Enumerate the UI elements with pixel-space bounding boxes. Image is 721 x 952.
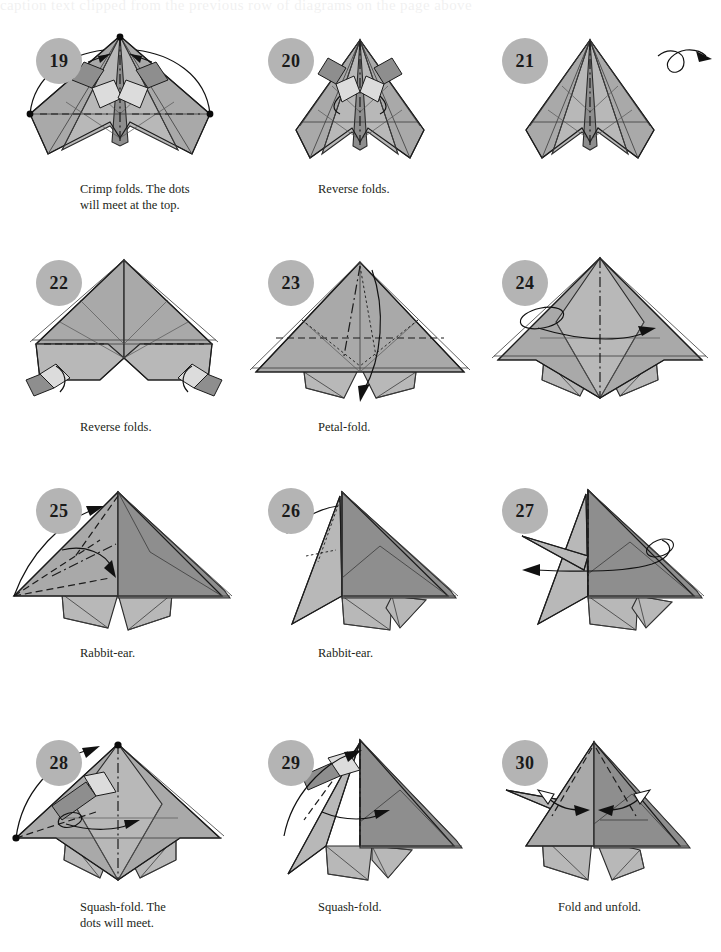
step-28: 28 Squash-fold. The dots will meet. xyxy=(0,728,240,952)
step-number-badge: 19 xyxy=(36,38,82,84)
origami-instruction-page: 19 Crimp folds. The dots will meet at th… xyxy=(0,0,721,952)
step-22: 22 Reverse folds. xyxy=(0,248,240,466)
step-caption: Squash-fold. The dots will meet. xyxy=(80,900,166,931)
step-21: 21 xyxy=(480,18,720,236)
step-30: 30 Fold and unfold. xyxy=(480,728,720,952)
step-caption: Crimp folds. The dots will meet at the t… xyxy=(80,182,190,213)
step-caption: Reverse folds. xyxy=(318,182,390,198)
step-19: 19 Crimp folds. The dots will meet at th… xyxy=(0,18,240,236)
step-number-badge: 28 xyxy=(36,740,82,786)
reference-dot xyxy=(114,741,121,748)
origami-figure-19 xyxy=(0,18,240,178)
reference-dot xyxy=(207,111,214,118)
step-25: 25 Rabbit-ear. xyxy=(0,478,240,686)
step-26: 26 Rabbit-ear. xyxy=(240,478,480,686)
step-number-badge: 30 xyxy=(502,740,548,786)
step-number-badge: 20 xyxy=(268,38,314,84)
step-number-badge: 24 xyxy=(502,260,548,306)
step-row: 25 Rabbit-ear. xyxy=(0,478,721,686)
step-number-badge: 22 xyxy=(36,260,82,306)
reference-dot xyxy=(117,34,124,41)
step-number-badge: 27 xyxy=(502,488,548,534)
step-caption: Petal-fold. xyxy=(318,420,370,436)
step-27: 27 xyxy=(480,478,720,686)
reference-dot xyxy=(12,834,19,841)
step-23: 23 Petal-fold. xyxy=(240,248,480,466)
origami-figure-28 xyxy=(0,728,240,888)
step-29: 29 Squash-fold. xyxy=(240,728,480,952)
step-number-badge: 29 xyxy=(268,740,314,786)
step-row: 22 Reverse folds. xyxy=(0,248,721,466)
reference-dot xyxy=(27,111,34,118)
step-caption: Rabbit-ear. xyxy=(318,646,373,662)
step-caption: Reverse folds. xyxy=(80,420,152,436)
step-number-badge: 23 xyxy=(268,260,314,306)
origami-figure-22 xyxy=(0,248,240,408)
step-number-badge: 21 xyxy=(502,38,548,84)
step-caption: Fold and unfold. xyxy=(558,900,641,916)
step-number-badge: 26 xyxy=(268,488,314,534)
step-row: 28 Squash-fold. The dots will meet. xyxy=(0,728,721,952)
step-24: 24 xyxy=(480,248,720,466)
origami-figure-25 xyxy=(0,478,240,638)
step-20: 20 Reverse folds. xyxy=(240,18,480,236)
step-caption: Squash-fold. xyxy=(318,900,382,916)
step-row: 19 Crimp folds. The dots will meet at th… xyxy=(0,18,721,236)
step-number-badge: 25 xyxy=(36,488,82,534)
step-caption: Rabbit-ear. xyxy=(80,646,135,662)
turn-over-arrow xyxy=(658,50,712,72)
